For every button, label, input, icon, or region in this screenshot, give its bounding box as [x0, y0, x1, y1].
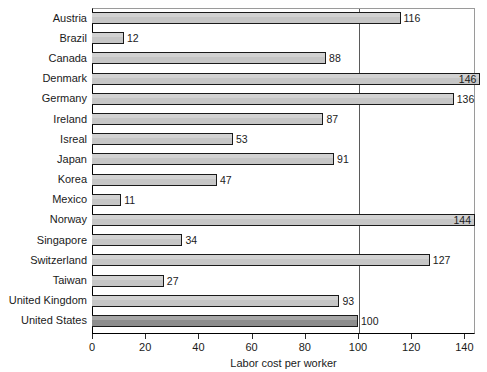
category-label: Isreal: [60, 134, 87, 145]
bar-rows: Austria116Brazil12Canada88Denmark146Germ…: [92, 8, 487, 332]
bar-row: Germany136: [92, 89, 487, 109]
bar-row: Norway144: [92, 210, 487, 230]
bar-value-label: 146: [459, 74, 477, 85]
bar-row: Korea47: [92, 170, 487, 190]
bar-value-label: 91: [337, 154, 349, 165]
bar-row: Japan91: [92, 149, 487, 169]
bar-value-label: 53: [236, 134, 248, 145]
bar: 116: [92, 12, 401, 24]
category-label: Austria: [53, 13, 87, 24]
category-label: United Kingdom: [9, 295, 87, 306]
bar-value-label: 88: [329, 53, 341, 64]
bar: 47: [92, 174, 217, 186]
bar-chart: Austria116Brazil12Canada88Denmark146Germ…: [0, 0, 487, 372]
bar-row: Isreal53: [92, 129, 487, 149]
x-axis-tick: [198, 334, 199, 339]
x-axis-tick-label: 40: [192, 341, 204, 353]
bar-value-label: 87: [326, 114, 338, 125]
x-axis-title: Labor cost per worker: [92, 357, 475, 369]
category-label: Taiwan: [53, 275, 87, 286]
bar: 93: [92, 295, 339, 307]
bar-value-label: 100: [361, 316, 379, 327]
bar: 34: [92, 234, 182, 246]
x-axis-tick-label: 120: [402, 341, 420, 353]
x-axis-tick: [252, 334, 253, 339]
category-label: Norway: [50, 214, 87, 225]
bar-row: Canada88: [92, 48, 487, 68]
category-label: Ireland: [53, 114, 87, 125]
x-axis-tick-label: 140: [455, 341, 473, 353]
bar-value-label: 11: [124, 195, 135, 206]
bar: 27: [92, 275, 164, 287]
x-axis: Labor cost per worker 020406080100120140: [92, 334, 475, 372]
x-axis-tick: [464, 334, 465, 339]
bar-row: Mexico11: [92, 190, 487, 210]
bar-value-label: 27: [167, 276, 179, 287]
bar-row: Singapore34: [92, 230, 487, 250]
x-axis-tick: [305, 334, 306, 339]
bar: 100: [92, 315, 358, 327]
bar: 144: [92, 214, 475, 226]
category-label: Korea: [58, 174, 87, 185]
category-label: Singapore: [37, 235, 87, 246]
bar-row: Austria116: [92, 8, 487, 28]
bar: 53: [92, 133, 233, 145]
bar: 88: [92, 52, 326, 64]
bar-value-label: 127: [433, 255, 451, 266]
bar: 12: [92, 32, 124, 44]
category-label: Canada: [48, 53, 87, 64]
category-label: Brazil: [59, 33, 87, 44]
x-axis-tick-label: 20: [139, 341, 151, 353]
bar-value-label: 34: [185, 235, 197, 246]
x-axis-tick: [145, 334, 146, 339]
bar: 11: [92, 194, 121, 206]
x-axis-tick-label: 60: [245, 341, 257, 353]
bar: 127: [92, 254, 430, 266]
bar: 136: [92, 93, 454, 105]
bar-row: Brazil12: [92, 28, 487, 48]
category-label: Mexico: [52, 194, 87, 205]
x-axis-tick: [411, 334, 412, 339]
bar: 87: [92, 113, 323, 125]
x-axis-tick-label: 100: [349, 341, 367, 353]
bar-row: United Kingdom93: [92, 291, 487, 311]
category-label: Denmark: [42, 73, 87, 84]
bar-row: Switzerland127: [92, 250, 487, 270]
x-axis-tick-label: 0: [89, 341, 95, 353]
bar: 146: [92, 73, 480, 85]
bar-row: Ireland87: [92, 109, 487, 129]
category-label: United States: [21, 315, 87, 326]
x-axis-tick: [92, 334, 93, 339]
bar-value-label: 136: [457, 94, 475, 105]
bar-row: Denmark146: [92, 69, 487, 89]
bar-row: United States100: [92, 311, 487, 331]
bar-value-label: 144: [454, 215, 472, 226]
bar: 91: [92, 153, 334, 165]
category-label: Germany: [42, 93, 87, 104]
category-label: Japan: [57, 154, 87, 165]
x-axis-tick-label: 80: [299, 341, 311, 353]
bar-value-label: 12: [127, 33, 139, 44]
bar-value-label: 47: [220, 175, 232, 186]
bar-row: Taiwan27: [92, 270, 487, 290]
bar-value-label: 93: [342, 296, 354, 307]
x-axis-tick: [358, 334, 359, 339]
bar-value-label: 116: [404, 13, 421, 24]
category-label: Switzerland: [30, 255, 87, 266]
